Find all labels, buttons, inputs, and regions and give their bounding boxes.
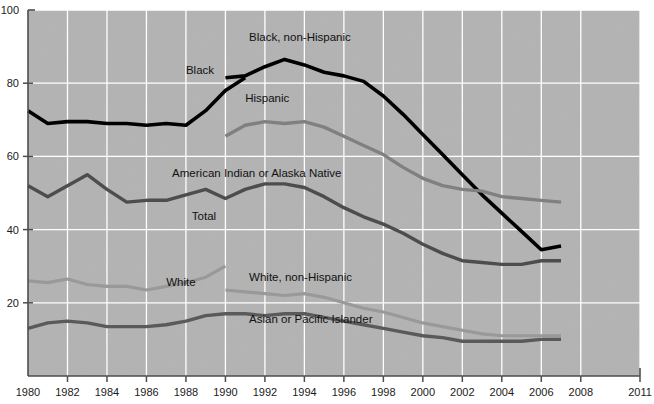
y-tick-label: 80 [7,77,19,89]
series-label-american-indian-or-alaska-native: American Indian or Alaska Native [172,167,341,179]
y-tick-label: 20 [7,297,19,309]
x-tick-label: 2006 [529,386,553,398]
series-label-total: Total [192,210,216,222]
x-tick-label: 1982 [55,386,79,398]
x-tick-label: 2000 [411,386,435,398]
y-tick-label: 100 [1,4,19,16]
x-tick-label: 1988 [174,386,198,398]
line-chart: 1980198219841986198819901992199419961998… [0,0,654,404]
series-label-black-non-hispanic: Black, non-Hispanic [249,31,351,43]
series-label-asian-or-pacific-islander: Asian or Pacific Islander [249,313,373,325]
series-label-black: Black [186,64,214,76]
x-tick-label: 1984 [95,386,119,398]
x-tick-label: 1998 [371,386,395,398]
series-label-white: White [166,276,195,288]
x-tick-label: 1986 [134,386,158,398]
x-tick-label: 1994 [292,386,316,398]
series-label-white-non-hispanic: White, non-Hispanic [249,271,352,283]
x-tick-label: 1992 [253,386,277,398]
x-tick-label: 2008 [569,386,593,398]
chart-container: 1980198219841986198819901992199419961998… [0,0,654,404]
x-tick-label: 2004 [490,386,514,398]
y-tick-label: 60 [7,150,19,162]
y-tick-label: 40 [7,224,19,236]
x-tick-label: 1980 [16,386,40,398]
x-tick-label: 1996 [332,386,356,398]
x-tick-label: 1990 [213,386,237,398]
series-label-hispanic: Hispanic [245,92,289,104]
x-tick-label: 2002 [450,386,474,398]
x-tick-label: 2011 [628,386,652,398]
